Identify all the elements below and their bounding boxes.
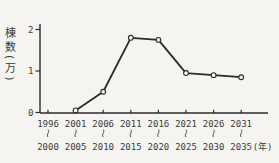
y-tick-label: 0 xyxy=(28,108,33,118)
x-tick-label-end: 2035 xyxy=(230,142,252,152)
x-tick-label-end: 2005 xyxy=(65,142,87,152)
range-tilde-mark xyxy=(158,130,159,138)
x-tick-label-end: 2000 xyxy=(37,142,59,152)
x-tick-label-end: 2025 xyxy=(175,142,197,152)
line-chart: 0121996200020012005200620102011201520162… xyxy=(0,0,279,163)
x-tick-label-end: 2020 xyxy=(148,142,170,152)
x-tick-label-start: 1996 xyxy=(37,119,59,129)
data-point-marker xyxy=(211,73,216,78)
range-tilde-mark xyxy=(75,130,76,138)
x-tick-label-start: 2006 xyxy=(92,119,114,129)
x-tick-label-start: 2016 xyxy=(148,119,170,129)
y-tick-label: 1 xyxy=(28,66,33,76)
data-point-marker xyxy=(128,35,133,40)
data-point-marker xyxy=(184,71,189,76)
x-tick-label-end: 2015 xyxy=(120,142,142,152)
range-tilde-mark xyxy=(130,130,131,138)
x-tick-label-end: 2010 xyxy=(92,142,114,152)
x-tick-label-start: 2001 xyxy=(65,119,87,129)
x-tick-label-start: 2011 xyxy=(120,119,142,129)
x-axis-unit-label: (年) xyxy=(253,141,273,152)
range-tilde-mark xyxy=(213,130,214,138)
range-tilde-mark xyxy=(185,130,186,138)
data-point-marker xyxy=(101,89,106,94)
range-tilde-mark xyxy=(241,130,242,138)
x-tick-label-end: 2030 xyxy=(203,142,225,152)
data-point-marker xyxy=(156,37,161,42)
x-tick-label-start: 2021 xyxy=(175,119,197,129)
chart-figure: 棟数(万) 0121996200020012005200620102011201… xyxy=(0,0,279,163)
y-tick-label: 2 xyxy=(28,25,33,35)
range-tilde-mark xyxy=(47,130,48,138)
range-tilde-mark xyxy=(103,130,104,138)
x-tick-label-start: 2031 xyxy=(230,119,252,129)
data-point-marker xyxy=(73,108,78,113)
x-tick-label-start: 2026 xyxy=(203,119,225,129)
data-point-marker xyxy=(239,75,244,80)
